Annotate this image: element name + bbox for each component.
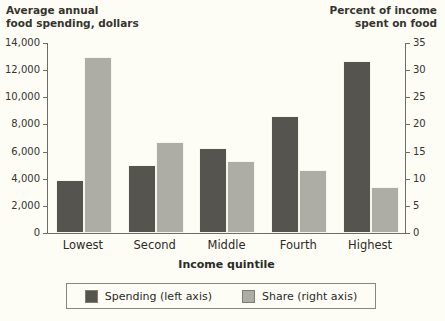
left-axis-tick-label: 10,000 — [5, 92, 40, 102]
category-label: Fourth — [262, 238, 334, 252]
chart-legend: Spending (left axis)Share (right axis) — [66, 283, 376, 309]
bar-group: Lowest — [47, 43, 119, 233]
left-axis-tick-label: 14,000 — [5, 38, 40, 48]
category-label: Highest — [334, 238, 406, 252]
x-axis-line — [47, 233, 406, 234]
legend-swatch-icon — [242, 290, 255, 303]
legend-label: Share (right axis) — [262, 290, 357, 303]
bar-spending[interactable] — [56, 180, 84, 233]
legend-item[interactable]: Share (right axis) — [242, 290, 357, 303]
left-axis-tick-label: 2,000 — [11, 201, 40, 211]
right-axis-tick-label: 25 — [413, 92, 426, 102]
bar-share[interactable] — [84, 57, 112, 233]
right-axis-tick — [406, 43, 410, 44]
bar-spending[interactable] — [271, 116, 299, 233]
right-axis-tick — [406, 179, 410, 180]
category-label: Middle — [191, 238, 263, 252]
bar-group: Second — [119, 43, 191, 233]
right-axis-tick-label: 30 — [413, 65, 426, 75]
left-axis-tick — [43, 233, 47, 234]
bar-share[interactable] — [156, 142, 184, 233]
bar-share[interactable] — [371, 187, 399, 233]
bar-group: Highest — [334, 43, 406, 233]
right-axis-tick — [406, 97, 410, 98]
plot-area: 02,0004,0006,0008,00010,00012,00014,000 … — [47, 43, 406, 233]
bar-spending[interactable] — [199, 148, 227, 233]
right-axis-tick-label: 35 — [413, 38, 426, 48]
legend-label: Spending (left axis) — [105, 290, 212, 303]
left-axis-tick-label: 0 — [34, 228, 40, 238]
right-axis-tick-label: 15 — [413, 147, 426, 157]
right-axis-tick-label: 20 — [413, 119, 426, 129]
right-axis-title: Percent of incomespent on food — [329, 4, 437, 30]
bar-group: Middle — [191, 43, 263, 233]
bar-share[interactable] — [227, 161, 255, 233]
left-axis-title-line2: food spending, dollars — [6, 17, 139, 29]
bar-group: Fourth — [262, 43, 334, 233]
chart-figure: Average annualfood spending, dollars Per… — [0, 0, 445, 321]
right-axis-tick — [406, 152, 410, 153]
right-axis-tick-label: 10 — [413, 174, 426, 184]
right-axis-tick-label: 0 — [413, 228, 419, 238]
category-label: Second — [119, 238, 191, 252]
right-axis-tick — [406, 70, 410, 71]
left-axis-title-line1: Average annual — [6, 4, 98, 16]
legend-swatch-icon — [85, 290, 98, 303]
right-axis-tick — [406, 206, 410, 207]
right-axis-title-line1: Percent of income — [329, 4, 437, 16]
left-axis-tick-label: 8,000 — [11, 119, 40, 129]
category-label: Lowest — [47, 238, 119, 252]
left-axis-tick-label: 12,000 — [5, 65, 40, 75]
left-axis-title: Average annualfood spending, dollars — [6, 4, 139, 30]
right-axis-title-line2: spent on food — [355, 17, 437, 29]
bar-spending[interactable] — [128, 165, 156, 233]
right-axis-tick — [406, 124, 410, 125]
bar-spending[interactable] — [343, 61, 371, 233]
bar-share[interactable] — [299, 170, 327, 233]
left-axis-tick-label: 6,000 — [11, 147, 40, 157]
x-axis-label: Income quintile — [47, 258, 406, 271]
right-axis-tick-label: 5 — [413, 201, 419, 211]
legend-item[interactable]: Spending (left axis) — [85, 290, 212, 303]
left-axis-tick-label: 4,000 — [11, 174, 40, 184]
right-axis-tick — [406, 233, 410, 234]
